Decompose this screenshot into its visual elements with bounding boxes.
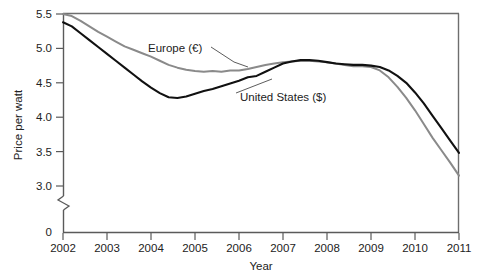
y-axis-ticklabels: 5.5 5.0 4.5 4.0 3.5 3.0 0 <box>36 8 52 238</box>
x-ticklabel-2008: 2008 <box>314 242 340 254</box>
x-axis-ticklabels: 2002 2003 2004 2005 2006 2007 2008 2009 … <box>50 242 471 254</box>
series-line-united-states <box>63 22 459 153</box>
line-chart: 5.5 5.0 4.5 4.0 3.5 3.0 0 Price per watt… <box>0 0 494 280</box>
y-ticklabel-3-0: 3.0 <box>36 180 52 192</box>
y-axis-ticks <box>56 14 63 186</box>
x-axis-ticks <box>63 233 459 240</box>
series-label-europe: Europe (€) <box>148 42 203 54</box>
x-ticklabel-2002: 2002 <box>50 242 76 254</box>
x-ticklabel-2007: 2007 <box>270 242 296 254</box>
y-axis-break-icon <box>58 196 69 210</box>
y-ticklabel-5-0: 5.0 <box>36 42 52 54</box>
x-ticklabel-2011: 2011 <box>447 242 472 254</box>
x-ticklabel-2010: 2010 <box>402 242 428 254</box>
x-ticklabel-2004: 2004 <box>138 242 164 254</box>
x-ticklabel-2005: 2005 <box>182 242 208 254</box>
y-ticklabel-zero: 0 <box>46 226 52 238</box>
y-ticklabel-4-5: 4.5 <box>36 77 52 89</box>
series-label-united-states: United States ($) <box>240 91 326 103</box>
y-ticklabel-5-5: 5.5 <box>36 8 52 20</box>
x-axis-title: Year <box>249 260 272 272</box>
x-ticklabel-2009: 2009 <box>358 242 384 254</box>
x-ticklabel-2006: 2006 <box>226 242 252 254</box>
x-ticklabel-2003: 2003 <box>94 242 120 254</box>
chart-figure: 5.5 5.0 4.5 4.0 3.5 3.0 0 Price per watt… <box>0 0 494 280</box>
y-axis-title: Price per watt <box>12 89 24 160</box>
y-ticklabel-3-5: 3.5 <box>36 146 52 158</box>
y-ticklabel-4-0: 4.0 <box>36 111 52 123</box>
